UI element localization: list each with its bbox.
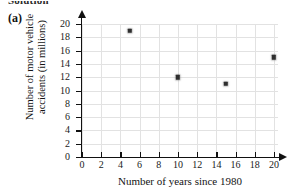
gridline-horizontal — [82, 51, 278, 52]
y-axis-tick-label: 6 — [44, 112, 70, 122]
x-axis-tick-label: 4 — [110, 160, 130, 170]
y-axis-tick-label: 20 — [44, 19, 70, 29]
gridline-horizontal — [82, 117, 278, 118]
y-axis-title-line-1: Number of motor vehicle — [24, 0, 36, 147]
data-point — [128, 28, 132, 32]
x-axis-tick-label: 20 — [264, 160, 284, 170]
gridline-horizontal — [82, 64, 278, 65]
y-axis-tick-label: 10 — [44, 86, 70, 96]
data-point — [224, 82, 228, 86]
x-axis-tick — [178, 152, 179, 158]
y-axis-tick — [76, 130, 82, 131]
x-axis-tick-label: 14 — [206, 160, 226, 170]
x-axis-tick — [197, 152, 198, 158]
scatter-plot-figure: Number of years since 1980 Number of mot… — [0, 0, 302, 195]
y-axis-tick — [76, 104, 82, 105]
x-axis-tick — [82, 152, 83, 158]
x-axis-tick-label: 10 — [168, 160, 188, 170]
gridline-horizontal — [82, 91, 278, 92]
x-axis-tick — [274, 152, 275, 158]
y-axis-tick-label: 2 — [44, 139, 70, 149]
y-axis-tick-label: 12 — [44, 72, 70, 82]
gridline-horizontal — [82, 104, 278, 105]
x-axis-tick-label: 18 — [245, 160, 265, 170]
x-axis-title: Number of years since 1980 — [82, 175, 278, 187]
y-axis-tick-label: 18 — [44, 32, 70, 42]
data-point — [272, 55, 276, 59]
x-axis-tick-label: 16 — [226, 160, 246, 170]
y-axis-tick — [76, 24, 82, 25]
x-axis-tick-label: 2 — [91, 160, 111, 170]
y-axis-tick — [76, 117, 82, 118]
y-axis-tick — [76, 51, 82, 52]
x-axis-tick-label: 6 — [130, 160, 150, 170]
x-axis-tick — [216, 152, 217, 158]
y-axis-tick-label: 0 — [44, 152, 70, 162]
x-axis-tick-label: 12 — [187, 160, 207, 170]
y-axis-tick-label: 8 — [44, 99, 70, 109]
gridline-horizontal — [82, 130, 278, 131]
x-axis-tick — [255, 152, 256, 158]
y-axis-tick-label: 4 — [44, 125, 70, 135]
y-axis-tick — [76, 91, 82, 92]
x-axis-tick-label: 0 — [72, 160, 92, 170]
y-axis-tick — [76, 64, 82, 65]
y-axis-tick — [76, 144, 82, 145]
x-axis-tick — [101, 152, 102, 158]
y-axis-tick — [76, 77, 82, 78]
y-axis-tick-label: 16 — [44, 46, 70, 56]
x-axis-tick — [236, 152, 237, 158]
y-axis-tick — [76, 37, 82, 38]
x-axis-line — [81, 157, 281, 158]
x-axis-tick-label: 8 — [149, 160, 169, 170]
x-axis-tick — [120, 152, 121, 158]
gridline-horizontal — [82, 24, 278, 25]
gridline-horizontal — [82, 144, 278, 145]
y-axis-tick-label: 14 — [44, 59, 70, 69]
plot-area — [82, 24, 274, 157]
gridline-horizontal — [82, 37, 278, 38]
x-axis-tick — [159, 152, 160, 158]
y-axis-arrow-icon — [78, 10, 86, 18]
data-point — [176, 75, 180, 79]
x-axis-tick — [140, 152, 141, 158]
gridline-horizontal — [82, 77, 278, 78]
